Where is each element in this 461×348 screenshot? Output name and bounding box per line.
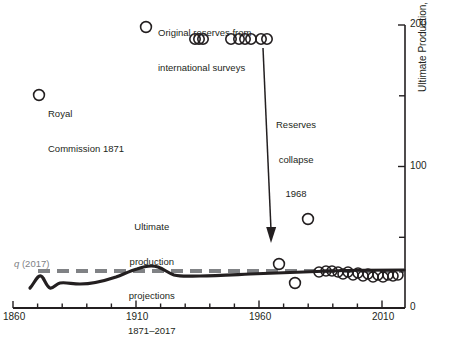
annotation-reserves-collapse: Reserves collapse 1968 <box>276 96 316 223</box>
reserves-collapse-arrow <box>263 48 276 243</box>
annotation-ultimate-line3: projections <box>128 290 176 302</box>
annotation-royal-commission: Royal Commission 1871 <box>48 85 124 177</box>
x-tick-label-2010: 2010 <box>372 311 394 322</box>
y-tick-label-100: 100 <box>410 160 427 171</box>
annotation-collapse-line3: 1968 <box>276 188 316 200</box>
annotation-original-reserves-line1: Original reserves from <box>158 27 251 39</box>
marker-original-reserves-key <box>141 22 152 33</box>
marker-1974 <box>290 278 301 289</box>
annotation-royal-line1: Royal <box>48 108 124 120</box>
annotation-q-2017: q (2017) <box>14 258 49 270</box>
x-tick-label-1960: 1960 <box>249 311 271 322</box>
annotation-royal-line2: Commission 1871 <box>48 143 124 155</box>
figure-canvas: 1860 1910 1960 2010 200 100 0 Ultimate P… <box>0 0 461 348</box>
annotation-original-reserves: Original reserves from international sur… <box>158 4 251 96</box>
annotation-ultimate-line2: production <box>128 256 176 268</box>
annotation-original-reserves-line2: international surveys <box>158 62 251 74</box>
annotation-collapse-line1: Reserves <box>276 119 316 131</box>
annotation-collapse-line2: collapse <box>276 154 316 166</box>
x-tick-marks <box>13 301 382 309</box>
annotation-ultimate-line1: Ultimate <box>128 221 176 233</box>
y-tick-marks <box>398 25 405 308</box>
y-axis-title: Ultimate Production, Gt <box>417 0 428 92</box>
marker-royal-commission <box>34 90 45 101</box>
annotation-q-year: (2017) <box>19 258 49 269</box>
annotation-ultimate-line4: 1871–2017 <box>128 325 176 337</box>
annotation-ultimate-projections: Ultimate production projections 1871–201… <box>128 198 176 348</box>
marker-1968 <box>274 259 285 270</box>
x-tick-label-1860: 1860 <box>3 311 25 322</box>
y-tick-label-0: 0 <box>410 301 416 312</box>
